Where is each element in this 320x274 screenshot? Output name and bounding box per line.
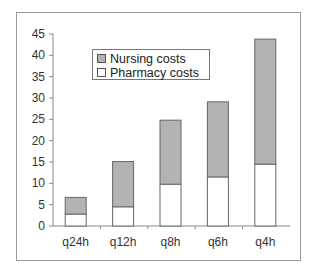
y-tick-label: 15	[32, 155, 46, 169]
bar-segment	[160, 120, 181, 184]
bar-segment	[113, 162, 134, 207]
stacked-bar-chart: 051015202530354045q24hq12hq8hq6hq4h	[0, 0, 320, 274]
y-tick-label: 20	[32, 134, 46, 148]
y-tick-label: 30	[32, 91, 46, 105]
legend-item-nursing: Nursing costs	[97, 52, 209, 65]
y-tick-label: 5	[38, 198, 45, 212]
x-category-label: q12h	[110, 235, 137, 249]
bar-segment	[207, 102, 228, 177]
y-tick-label: 40	[32, 48, 46, 62]
y-tick-label: 35	[32, 70, 46, 84]
legend-item-pharmacy: Pharmacy costs	[97, 66, 209, 79]
x-category-label: q8h	[160, 235, 180, 249]
y-tick-label: 45	[32, 27, 46, 41]
legend-label-nursing: Nursing costs	[110, 52, 186, 66]
x-category-label: q6h	[208, 235, 228, 249]
bar-segment	[255, 164, 276, 226]
pharmacy-swatch-icon	[97, 68, 106, 77]
bar-segment	[65, 197, 86, 214]
legend: Nursing costs Pharmacy costs	[92, 49, 210, 80]
y-tick-label: 25	[32, 112, 46, 126]
nursing-swatch-icon	[97, 54, 106, 63]
x-category-label: q4h	[255, 235, 275, 249]
x-category-label: q24h	[62, 235, 89, 249]
bar-segment	[255, 39, 276, 164]
bar-segment	[160, 184, 181, 226]
legend-label-pharmacy: Pharmacy costs	[110, 66, 199, 80]
y-tick-label: 0	[38, 219, 45, 233]
bar-segment	[65, 214, 86, 226]
bar-segment	[113, 207, 134, 226]
bar-segment	[207, 177, 228, 226]
y-tick-label: 10	[32, 176, 46, 190]
